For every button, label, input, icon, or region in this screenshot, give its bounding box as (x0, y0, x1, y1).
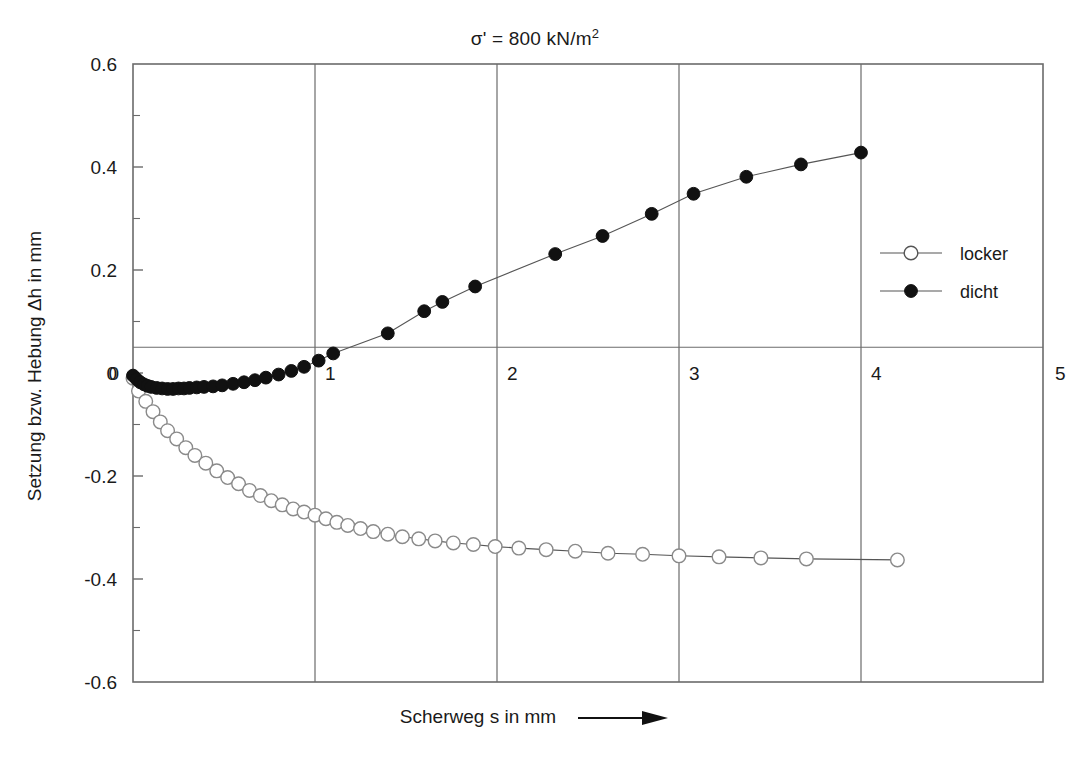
data-point-dicht (795, 158, 808, 171)
data-point-locker (366, 525, 380, 539)
data-point-locker (712, 550, 726, 564)
data-point-locker (754, 551, 768, 565)
data-point-locker (601, 546, 615, 560)
data-point-locker (800, 552, 814, 566)
y-tick-label: -0.6 (84, 672, 117, 693)
legend-marker-locker (904, 246, 918, 260)
legend-label-dicht: dicht (960, 282, 998, 302)
data-point-dicht (469, 280, 482, 293)
plot-area: 0.60.40.20-0.2-0.4-0.6012345lockerdicht (0, 0, 1070, 762)
data-point-dicht (549, 248, 562, 261)
data-point-dicht (272, 368, 285, 381)
data-point-locker (341, 519, 355, 533)
legend-label-locker: locker (960, 244, 1008, 264)
x-tick-label: 3 (689, 363, 700, 384)
data-point-locker (636, 547, 650, 561)
data-point-locker (396, 530, 410, 544)
data-point-locker (512, 541, 526, 555)
data-point-locker (891, 553, 905, 567)
y-tick-label: 0.2 (91, 260, 117, 281)
data-point-locker (412, 532, 426, 546)
data-point-locker (354, 522, 368, 536)
x-tick-label: 4 (871, 363, 882, 384)
data-point-locker (381, 527, 395, 541)
data-point-locker (428, 534, 442, 548)
x-tick-label: 2 (507, 363, 518, 384)
data-point-locker (447, 536, 461, 550)
chart-figure: σ' = 800 kN/m2 Setzung bzw. Hebung Δh in… (0, 0, 1070, 762)
data-point-dicht (855, 146, 868, 159)
y-tick-label: -0.4 (84, 569, 117, 590)
data-point-dicht (259, 371, 272, 384)
data-point-dicht (740, 170, 753, 183)
y-tick-label: 0.6 (91, 54, 117, 75)
data-point-dicht (645, 207, 658, 220)
data-point-locker (467, 538, 481, 552)
x-tick-label: 1 (325, 363, 336, 384)
data-point-locker (488, 540, 502, 554)
data-point-locker (672, 549, 686, 563)
data-point-dicht (418, 305, 431, 318)
data-point-dicht (687, 187, 700, 200)
series-line-locker (133, 378, 897, 560)
x-tick-label: 0 (108, 363, 119, 384)
legend-marker-dicht (905, 285, 918, 298)
data-point-locker (539, 543, 553, 557)
data-point-dicht (596, 230, 609, 243)
data-point-dicht (285, 365, 298, 378)
y-tick-label: -0.2 (84, 466, 117, 487)
data-point-dicht (436, 296, 449, 309)
data-point-dicht (327, 347, 340, 360)
data-point-dicht (312, 354, 325, 367)
data-point-dicht (298, 360, 311, 373)
data-point-locker (568, 544, 582, 558)
y-tick-label: 0.4 (91, 157, 118, 178)
x-tick-label: 5 (1055, 363, 1066, 384)
data-point-dicht (381, 327, 394, 340)
